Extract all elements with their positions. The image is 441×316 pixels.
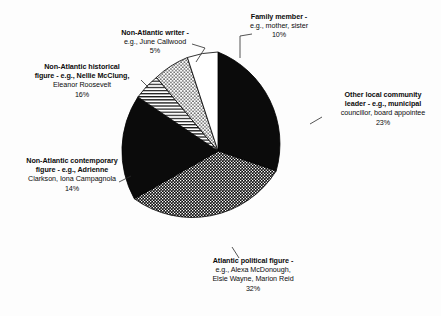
callout-non-atlantic-contemporary-figure: Non-Atlantic contemporary figure - e.g.,…: [2, 156, 142, 193]
callout-non-atlantic-writer-title: Non-Atlantic writer -: [121, 28, 189, 37]
callout-atlantic-political-figure-detail: e.g., Alexa McDonough,: [215, 265, 290, 274]
callout-non-atlantic-historical-figure-title-2: figure - e.g., Nellie McClung,: [35, 71, 130, 80]
callout-non-atlantic-contemporary-figure-title: Non-Atlantic contemporary: [26, 156, 117, 165]
callout-atlantic-political-figure: Atlantic political figure - e.g., Alexa …: [178, 256, 328, 293]
pie-chart-figure: Family member - e.g., mother, sister 10%…: [0, 0, 441, 316]
callout-non-atlantic-contemporary-figure-percent: 14%: [2, 184, 142, 193]
callout-other-local-community-leader-title-2: leader - e.g., municipal: [345, 99, 421, 108]
callout-family-member: Family member - e.g., mother, sister 10%: [218, 12, 340, 40]
callout-family-member-percent: 10%: [218, 30, 340, 39]
callout-non-atlantic-historical-figure-percent: 16%: [18, 90, 146, 99]
callout-non-atlantic-contemporary-figure-detail: Clarkson, Iona Campagnola: [28, 174, 116, 183]
callout-non-atlantic-writer-detail: e.g., June Callwood: [124, 37, 186, 46]
callout-atlantic-political-figure-percent: 32%: [178, 284, 328, 293]
callout-non-atlantic-writer-percent: 5%: [96, 46, 214, 55]
callout-non-atlantic-writer: Non-Atlantic writer - e.g., June Callwoo…: [96, 28, 214, 56]
callout-other-local-community-leader-detail: councillor, board appointee: [341, 108, 426, 117]
pie-slice-family-member[interactable]: [218, 52, 280, 171]
callout-atlantic-political-figure-title: Atlantic political figure -: [213, 256, 294, 265]
callout-other-local-community-leader-title: Other local community: [345, 90, 422, 99]
callout-atlantic-political-figure-detail-2: Elsie Wayne, Marion Reid: [212, 274, 293, 283]
callout-non-atlantic-historical-figure: Non-Atlantic historical figure - e.g., N…: [18, 62, 146, 99]
callout-non-atlantic-historical-figure-title: Non-Atlantic historical: [44, 62, 120, 71]
callout-other-local-community-leader-percent: 23%: [325, 118, 441, 127]
callout-family-member-title: Family member -: [251, 12, 307, 21]
callout-non-atlantic-contemporary-figure-title-2: figure - e.g., Adrienne: [36, 165, 108, 174]
callout-non-atlantic-historical-figure-detail: Eleanor Roosevelt: [53, 80, 111, 89]
callout-other-local-community-leader: Other local community leader - e.g., mun…: [325, 90, 441, 127]
callout-family-member-detail: e.g., mother, sister: [250, 21, 308, 30]
leader-line-other-local-community-leader: [310, 117, 322, 124]
